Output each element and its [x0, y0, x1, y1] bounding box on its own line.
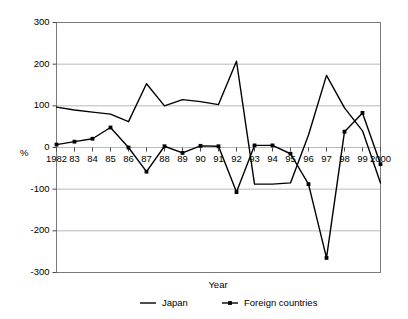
- legend-label-1: Foreign countries: [244, 297, 318, 308]
- x-axis-title: Year: [208, 279, 227, 290]
- data-point-1988: [163, 144, 167, 148]
- data-point-1989: [181, 151, 185, 155]
- line-chart: 1982838485868788899091929394959697989920…: [0, 0, 408, 319]
- y-tick-label-300: 300: [34, 16, 50, 27]
- x-tick-label-1988: 88: [159, 153, 170, 164]
- x-tick-label-1994: 94: [267, 153, 278, 164]
- x-tick-label-1999: 99: [357, 153, 368, 164]
- x-tick-label-1997: 97: [321, 153, 332, 164]
- data-point-1995: [289, 152, 293, 156]
- data-point-1992: [235, 190, 239, 194]
- data-point-1987: [145, 170, 149, 174]
- data-point-1984: [91, 137, 95, 141]
- data-point-1983: [73, 140, 77, 144]
- y-tick-label--300: -300: [30, 266, 49, 277]
- x-tick-label-1987: 87: [141, 153, 152, 164]
- x-tick-label-1985: 85: [105, 153, 116, 164]
- y-tick-label-100: 100: [34, 99, 50, 110]
- x-tick-label-1992: 92: [231, 153, 242, 164]
- data-point-1996: [307, 182, 311, 186]
- chart-container: 1982838485868788899091929394959697989920…: [0, 0, 408, 319]
- legend-label-0: Japan: [162, 297, 188, 308]
- y-tick-label--100: -100: [30, 183, 49, 194]
- y-tick-label-200: 200: [34, 58, 50, 69]
- data-point-1993: [253, 144, 257, 148]
- data-point-1994: [271, 144, 275, 148]
- y-tick-label--200: -200: [30, 224, 49, 235]
- x-tick-label-1986: 86: [123, 153, 134, 164]
- data-point-1986: [127, 146, 131, 150]
- data-point-2000: [379, 162, 383, 166]
- x-tick-label-1996: 96: [303, 153, 314, 164]
- data-point-1990: [199, 144, 203, 148]
- legend-marker-1: [228, 301, 232, 305]
- x-tick-label-1990: 90: [195, 153, 206, 164]
- data-point-1997: [325, 256, 329, 260]
- data-point-1982: [55, 143, 59, 147]
- x-axis-tick-labels: 1982838485868788899091929394959697989920…: [46, 153, 391, 164]
- data-point-1998: [343, 130, 347, 134]
- data-point-1991: [217, 144, 221, 148]
- data-point-1985: [109, 126, 113, 130]
- y-axis-title: %: [20, 147, 29, 158]
- x-tick-label-1984: 84: [87, 153, 98, 164]
- data-point-1999: [361, 111, 365, 115]
- x-tick-label-1982: 1982: [46, 153, 67, 164]
- y-tick-label-0: 0: [44, 141, 49, 152]
- x-tick-label-1983: 83: [69, 153, 80, 164]
